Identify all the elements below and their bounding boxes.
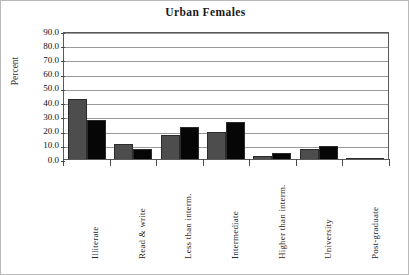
bar[interactable]: [114, 144, 133, 159]
bar[interactable]: [161, 135, 180, 159]
y-axis-tick-label: 0.0: [21, 156, 59, 165]
y-axis-tick-label: 30.0: [21, 113, 59, 122]
y-axis-tick-label: 90.0: [21, 28, 59, 37]
chart-figure: Urban Females Percent 90.080.070.060.050…: [0, 0, 409, 275]
y-axis-tick-label: 60.0: [21, 70, 59, 79]
bar-group: [342, 33, 388, 159]
y-axis-tick-labels: 90.080.070.060.050.040.030.020.010.00.0: [21, 32, 59, 160]
plot-area: [63, 32, 389, 160]
y-axis-tick-label: 50.0: [21, 84, 59, 93]
bar-group: [64, 33, 110, 159]
y-axis-label: Percent: [10, 31, 20, 111]
bar-group: [249, 33, 295, 159]
bar[interactable]: [226, 122, 245, 159]
y-axis-tick-label: 80.0: [21, 42, 59, 51]
x-axis-category-label: Higher than interm.: [277, 184, 287, 259]
x-axis-category-label: Illiterate: [90, 227, 100, 259]
x-axis-tickmark: [389, 159, 390, 166]
x-axis-category-label: Intermediate: [230, 211, 240, 259]
x-axis-category-label: Post-graduate: [370, 207, 380, 259]
bar[interactable]: [207, 132, 226, 159]
x-axis-category-label: Read & write: [137, 208, 147, 259]
bar[interactable]: [319, 146, 338, 160]
x-axis-category-labels: IlliterateRead & writeLess than interm.I…: [63, 163, 389, 263]
chart-title: Urban Females: [1, 6, 409, 18]
bar-group: [110, 33, 156, 159]
bars-layer: [64, 33, 388, 159]
bar-group: [295, 33, 341, 159]
bar[interactable]: [300, 149, 319, 159]
bar[interactable]: [87, 120, 106, 159]
y-axis-tick-label: 10.0: [21, 141, 59, 150]
bar-group: [157, 33, 203, 159]
x-axis-category-label: University: [323, 219, 333, 259]
y-axis-tick-label: 70.0: [21, 56, 59, 65]
bar-group: [203, 33, 249, 159]
bar[interactable]: [180, 127, 199, 159]
x-axis-category-label: Less than interm.: [183, 193, 193, 259]
y-axis-tick-label: 20.0: [21, 127, 59, 136]
bar[interactable]: [68, 99, 87, 159]
y-axis-tick-label: 40.0: [21, 99, 59, 108]
bar[interactable]: [133, 149, 152, 159]
